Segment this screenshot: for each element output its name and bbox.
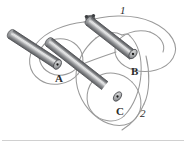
- rod-b-label: B: [131, 66, 138, 77]
- rod-c-label: C: [116, 106, 124, 117]
- rod-a-label: A: [55, 73, 63, 84]
- rod-b-mount-bolt-icon: [85, 15, 88, 18]
- loop-1-label: 1: [120, 5, 126, 16]
- figure-canvas: [0, 0, 186, 147]
- rod-b-mount-bolt-icon: [92, 14, 95, 17]
- loop-2-label: 2: [140, 108, 146, 119]
- current-into-page-dot: [132, 53, 134, 55]
- current-into-page-dot: [56, 63, 58, 65]
- rod-b-body: [86, 17, 136, 59]
- physics-figure: A B C 1 2: [0, 0, 186, 147]
- loop-2-wire: [76, 33, 149, 130]
- current-into-page-dot: [116, 95, 118, 97]
